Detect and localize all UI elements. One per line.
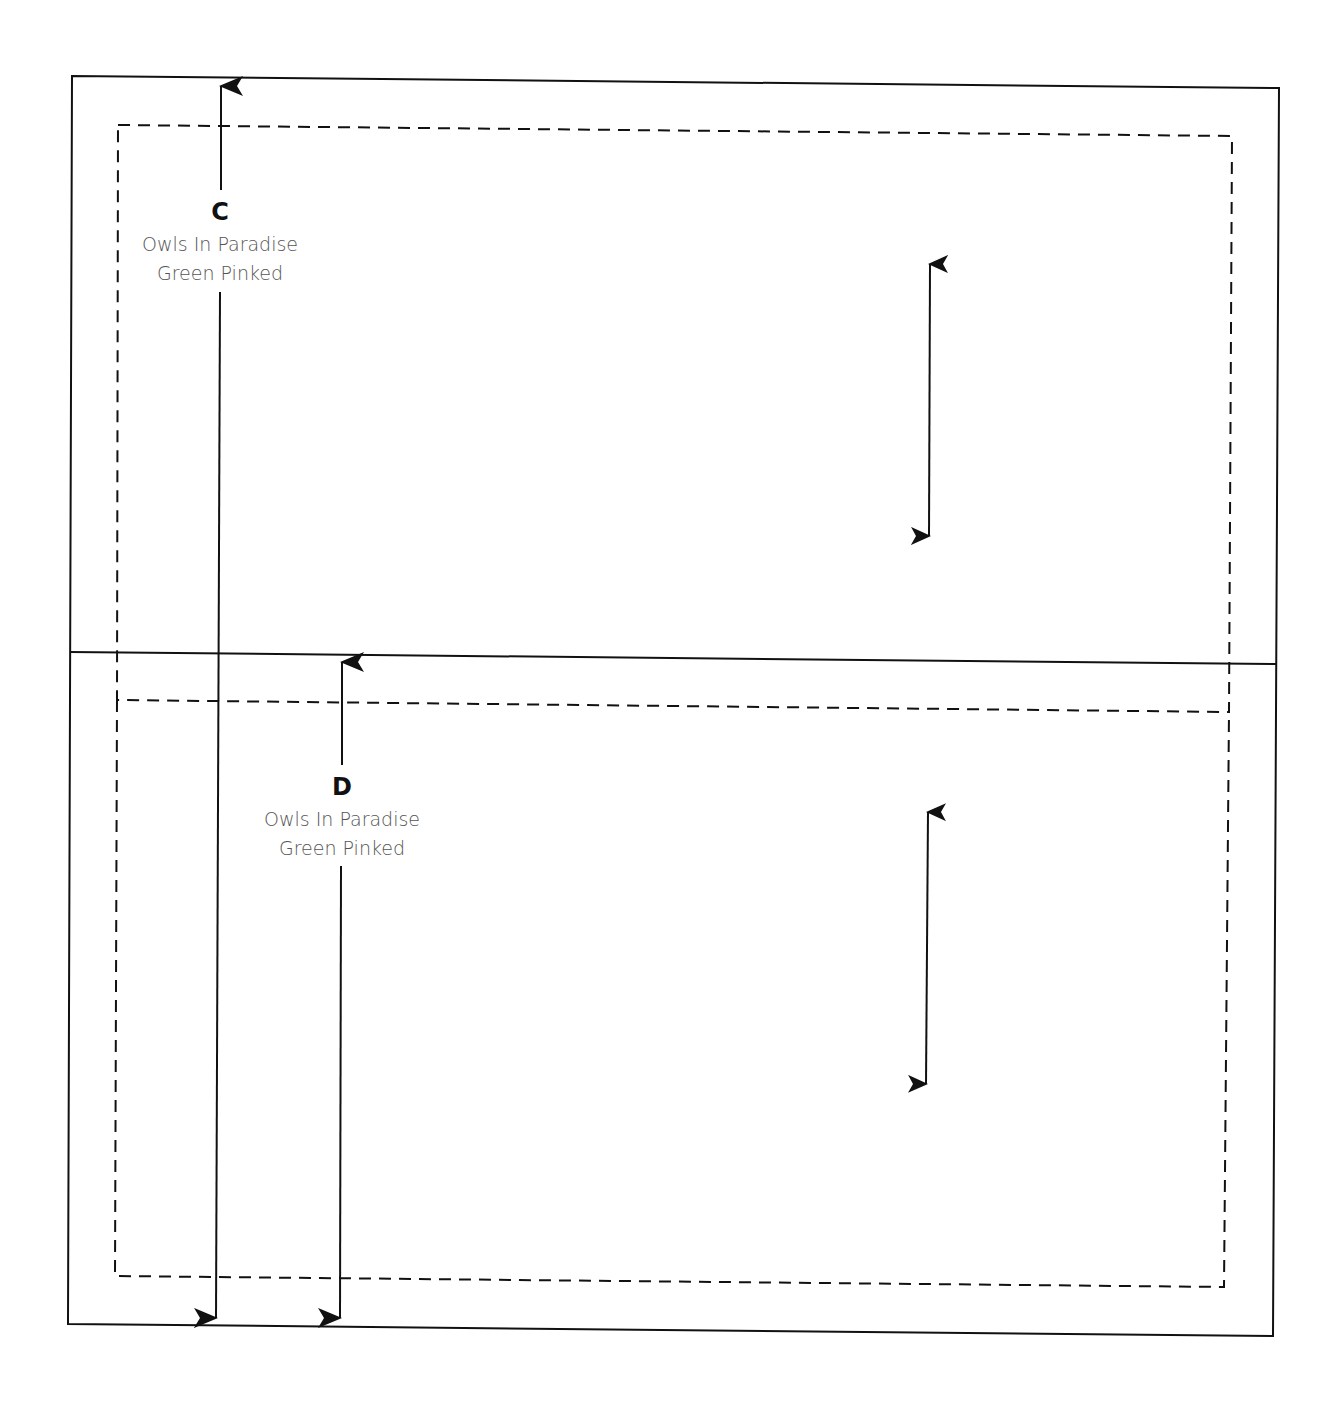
piece-d-finish: Green Pinked — [279, 837, 405, 859]
piece-c-arrow-lower — [216, 292, 220, 1318]
piece-d-label: D Owls In Paradise Green Pinked — [264, 773, 420, 859]
piece-c-letter: C — [211, 198, 229, 226]
seam-allowance-top — [117, 125, 1232, 712]
piece-d-letter: D — [332, 773, 352, 801]
panel-divider-line — [70, 652, 1276, 664]
piece-c-fabric-name: Owls In Paradise — [142, 233, 298, 255]
cutting-diagram: C Owls In Paradise Green Pinked D Owls I… — [0, 0, 1342, 1408]
piece-c-finish: Green Pinked — [157, 262, 283, 284]
piece-d-fabric-name: Owls In Paradise — [264, 808, 420, 830]
piece-c-label: C Owls In Paradise Green Pinked — [142, 198, 298, 284]
grainline-arrow-bottom — [926, 812, 928, 1084]
seam-allowance-bottom-left — [115, 700, 1229, 1287]
piece-d-arrow-lower — [340, 866, 341, 1318]
grainline-arrow-top — [929, 264, 930, 536]
